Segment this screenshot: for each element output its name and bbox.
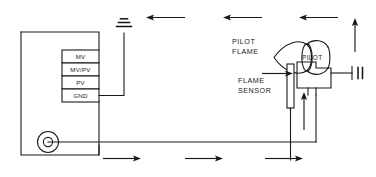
terminal-block: MV MV/PV PV GND — [62, 50, 99, 102]
flow-arrow-return-2 — [223, 14, 262, 20]
flow-arrow-return-1 — [146, 14, 185, 20]
flow-arrow-supply-2 — [185, 155, 223, 161]
flow-arrow-supply-1 — [103, 155, 141, 161]
spark-igniter-icon — [331, 67, 363, 80]
terminal-label-gnd: GND — [73, 92, 88, 99]
schematic-diagram: MV MV/PV PV GND — [0, 0, 376, 177]
terminal-label-pv: PV — [76, 79, 85, 86]
ground-icon — [117, 19, 132, 27]
flame-sensor-label-line1: FLAME — [238, 76, 264, 85]
pilot-body-label: PILOT — [302, 54, 322, 61]
flow-arrow-supply-3 — [265, 155, 303, 161]
pilot-flame-label-line2: FLAME — [232, 47, 258, 56]
terminal-label-mv: MV — [76, 53, 86, 60]
flame-sensor-element — [287, 64, 294, 108]
schematic-canvas: MV MV/PV PV GND — [0, 0, 376, 177]
flame-sensor-rod — [287, 64, 294, 160]
flow-arrow-return-3 — [299, 14, 338, 20]
terminal-label-mv-pv: MV/PV — [70, 66, 91, 73]
flame-sensor-label-line2: SENSOR — [238, 86, 271, 95]
pilot-burner-body — [297, 62, 331, 95]
flow-arrow-sensor-feed — [301, 92, 307, 130]
pilot-flame-label-line1: PILOT — [232, 37, 255, 46]
ground-wire — [99, 33, 124, 96]
flow-arrow-vent-up — [352, 18, 358, 52]
